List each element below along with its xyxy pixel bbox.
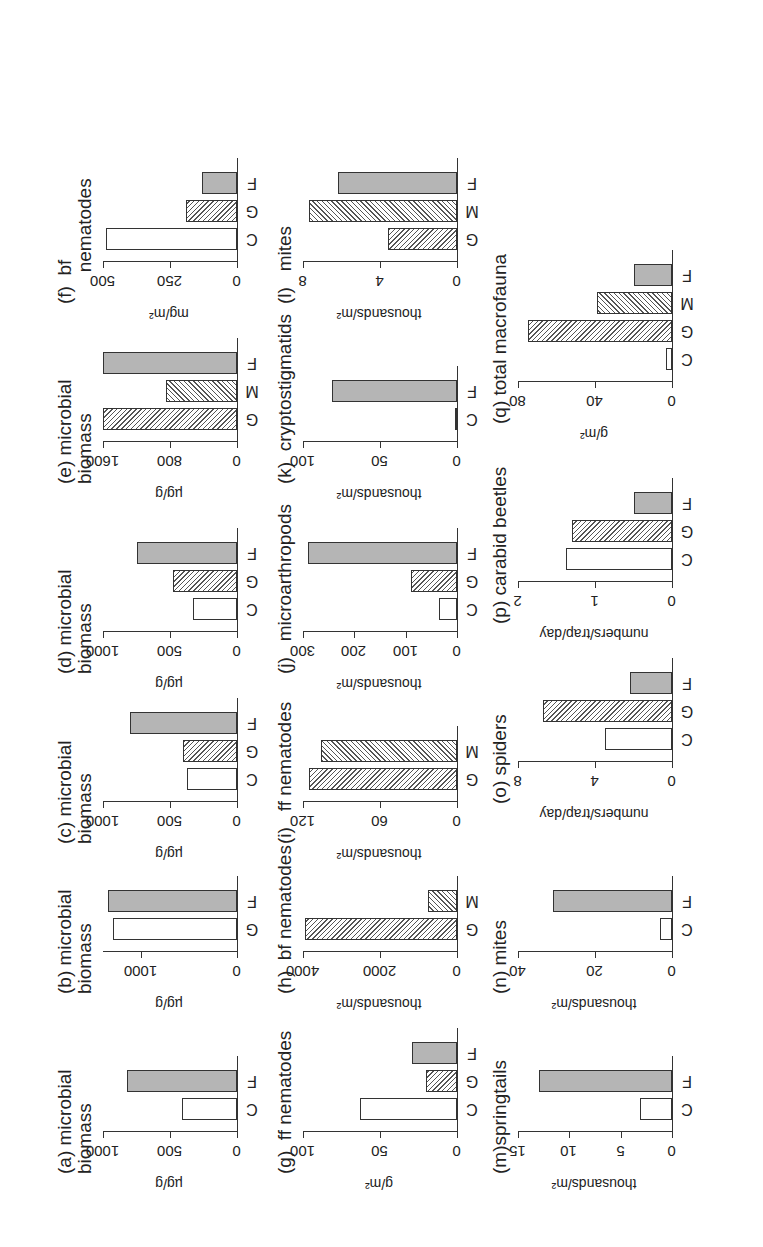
x-axis — [237, 1056, 238, 1132]
category-label: G — [677, 322, 697, 340]
y-tick-label: 100 — [278, 453, 328, 470]
y-tick — [457, 442, 458, 448]
y-tick — [354, 632, 355, 638]
bar-G — [309, 768, 457, 790]
bar-F — [332, 380, 457, 402]
panel-title: (o) spiders — [490, 714, 510, 804]
category-label: C — [242, 1100, 262, 1118]
bar-G — [572, 520, 672, 542]
x-axis — [237, 158, 238, 262]
category-label: G — [462, 230, 482, 248]
panel-i: (i) ff nematodes060120thousands/m²GM — [275, 670, 485, 850]
category-label: F — [242, 892, 262, 910]
figure-rotated: (a) microbial biomass05001000µg/gCF(b) m… — [0, 0, 763, 1247]
category-label: F — [462, 382, 482, 400]
y-tick — [303, 802, 304, 808]
bar-C — [182, 1098, 237, 1120]
bar-F — [553, 890, 672, 912]
y-tick-label: 500 — [78, 273, 128, 290]
y-tick — [518, 952, 519, 958]
y-tick — [380, 952, 381, 958]
y-tick — [457, 1132, 458, 1138]
x-axis — [672, 876, 673, 952]
y-tick-label: 500 — [145, 1143, 195, 1160]
y-tick-label: 0 — [647, 393, 697, 410]
y-tick — [170, 632, 171, 638]
y-tick — [595, 582, 596, 588]
bar-F — [108, 890, 237, 912]
y-tick — [170, 1132, 171, 1138]
y-tick-label: 0 — [432, 963, 482, 980]
panel-f: (f) bf nematodes0250500mg/m²CGF — [55, 130, 265, 310]
category-label: C — [242, 600, 262, 618]
category-label: M — [462, 892, 482, 910]
x-axis — [237, 876, 238, 952]
bar-C — [439, 598, 457, 620]
y-tick-label: 8 — [493, 773, 543, 790]
y-tick-label: 0 — [432, 643, 482, 660]
bar-M — [597, 292, 672, 314]
bar-F — [103, 352, 237, 374]
x-axis — [237, 338, 238, 442]
category-label: C — [677, 730, 697, 748]
category-label: C — [677, 1100, 697, 1118]
y-axis — [518, 1131, 672, 1132]
y-tick — [237, 262, 238, 268]
category-label: G — [677, 522, 697, 540]
y-tick-label: 200 — [329, 643, 379, 660]
bar-C — [455, 408, 457, 430]
bar-G — [411, 570, 457, 592]
category-label: F — [677, 1072, 697, 1090]
y-tick — [518, 382, 519, 388]
y-tick-label: 0 — [212, 643, 262, 660]
y-axis-label: µg/g — [89, 996, 249, 1012]
category-label: C — [242, 770, 262, 788]
y-tick-label: 500 — [145, 813, 195, 830]
y-tick-label: 0 — [647, 773, 697, 790]
panel-title: (l) mites — [275, 226, 295, 304]
y-tick — [457, 952, 458, 958]
y-axis-label: mg/m² — [89, 306, 249, 322]
y-tick-label: 4 — [355, 273, 405, 290]
y-tick — [380, 442, 381, 448]
y-tick — [237, 632, 238, 638]
bar-G — [113, 918, 237, 940]
y-tick-label: 500 — [145, 643, 195, 660]
y-tick-label: 0 — [432, 1143, 482, 1160]
y-axis-label: numbers/trap/day — [514, 626, 674, 642]
bar-G — [305, 918, 457, 940]
bar-F — [308, 542, 457, 564]
bar-G — [186, 200, 237, 222]
category-label: G — [242, 202, 262, 220]
category-label: M — [677, 294, 697, 312]
y-tick-label: 100 — [380, 643, 430, 660]
y-tick — [303, 262, 304, 268]
bar-C — [605, 728, 672, 750]
y-tick — [595, 952, 596, 958]
category-label: G — [462, 770, 482, 788]
x-axis — [457, 876, 458, 952]
y-tick-label: 0 — [432, 453, 482, 470]
category-label: G — [242, 742, 262, 760]
category-label: F — [242, 1072, 262, 1090]
y-axis-label: thousands/m² — [299, 486, 459, 502]
category-label: F — [677, 674, 697, 692]
category-label: C — [462, 600, 482, 618]
panel-q: (q) total macrofauna04080g/m²CGMF — [490, 250, 700, 430]
category-label: G — [242, 920, 262, 938]
category-label: M — [242, 382, 262, 400]
x-axis — [672, 250, 673, 382]
y-tick-label: 4000 — [278, 963, 328, 980]
y-tick — [672, 1132, 673, 1138]
y-tick — [595, 382, 596, 388]
y-tick — [103, 1132, 104, 1138]
y-tick-label: 120 — [278, 813, 328, 830]
category-label: F — [242, 174, 262, 192]
bar-G — [543, 700, 672, 722]
bar-F — [412, 1042, 457, 1064]
x-axis — [672, 478, 673, 582]
y-tick — [672, 762, 673, 768]
y-axis-label: thousands/m² — [514, 1176, 674, 1192]
bar-F — [539, 1070, 672, 1092]
category-label: F — [242, 544, 262, 562]
